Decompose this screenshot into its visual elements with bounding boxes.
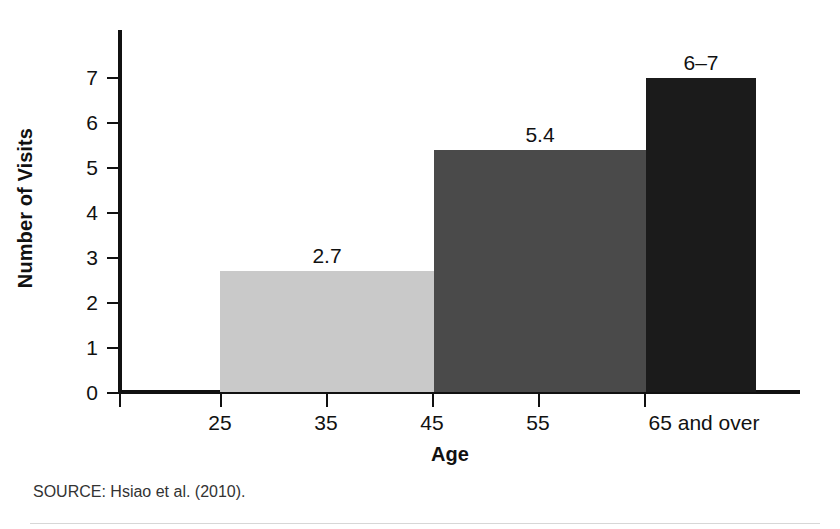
y-tick-3: 3 [107,257,119,259]
y-tick-1: 1 [107,347,119,349]
x-tick-origin [119,394,121,407]
bottom-divider [30,523,820,524]
y-tick-label-7: 7 [86,67,98,88]
x-axis-title-text: Age [431,443,469,465]
bar-25-44[interactable]: 2.7 [220,271,434,392]
x-tick-35 [326,394,328,407]
bar-value-label-3: 6–7 [683,52,718,73]
y-tick-label-3: 3 [86,247,98,268]
y-tick-2: 2 [107,302,119,304]
bar-value-label-2: 5.4 [525,124,554,145]
x-tick-25 [220,394,222,407]
y-axis-title: Number of Visits [14,128,37,288]
y-tick-0: 0 [107,392,119,394]
x-tick-65 [644,394,646,407]
y-tick-7: 7 [107,77,119,79]
y-tick-label-1: 1 [86,337,98,358]
y-tick-label-2: 2 [86,292,98,313]
bar-chart-figure: Number of Visits 0 1 2 3 4 5 6 7 2.7 5.4… [0,0,840,529]
y-tick-6: 6 [107,122,119,124]
plot-area: 2.7 5.4 6–7 [120,30,800,392]
x-tick-45 [432,394,434,407]
source-note: SOURCE: Hsiao et al. (2010). [33,483,246,501]
y-tick-label-0: 0 [86,382,98,403]
bar-45-64[interactable]: 5.4 [434,150,646,392]
x-tick-label-45: 45 [420,412,443,433]
x-tick-label-55: 55 [526,412,549,433]
y-tick-label-5: 5 [86,157,98,178]
x-tick-label-35: 35 [314,412,337,433]
y-tick-4: 4 [107,212,119,214]
y-tick-5: 5 [107,167,119,169]
x-tick-55 [538,394,540,407]
y-tick-label-6: 6 [86,112,98,133]
x-tick-label-25: 25 [208,412,231,433]
x-axis-title: Age [0,443,840,466]
x-tick-label-65-and-over: 65 and over [649,412,760,433]
bar-value-label-1: 2.7 [312,245,341,266]
bar-65-and-over[interactable]: 6–7 [646,78,756,392]
y-tick-label-4: 4 [86,202,98,223]
